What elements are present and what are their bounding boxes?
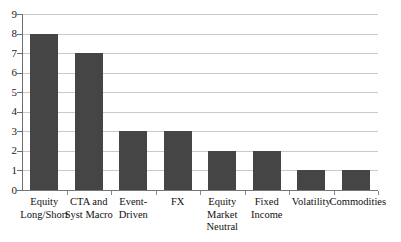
x-axis-category-label: Commodities <box>330 196 383 209</box>
bar-series <box>22 14 378 190</box>
x-axis-tick <box>67 191 68 195</box>
x-axis-tick <box>200 191 201 195</box>
x-axis-category-label-line: Neutral <box>196 221 249 234</box>
bar <box>253 151 281 190</box>
y-axis-tick-label: 5 <box>3 87 17 98</box>
bar <box>75 53 103 190</box>
bar <box>164 131 192 190</box>
x-axis-tick <box>245 191 246 195</box>
x-axis-tick <box>334 191 335 195</box>
x-axis-category-label-line: Income <box>241 209 294 222</box>
bar <box>119 131 147 190</box>
x-axis-tick <box>289 191 290 195</box>
x-axis-labels: EquityLong/ShortCTA andSyst MacroEvent-D… <box>22 196 378 242</box>
y-axis-tick <box>17 190 22 191</box>
x-axis-category-label-line: Commodities <box>330 196 383 209</box>
x-axis-tick <box>378 191 379 195</box>
y-axis-tick-label: 7 <box>3 48 17 59</box>
bar-chart: 0123456789 EquityLong/ShortCTA andSyst M… <box>0 0 401 242</box>
bar <box>30 34 58 190</box>
bar <box>297 170 325 190</box>
y-axis-tick-label: 6 <box>3 67 17 78</box>
y-axis-tick-label: 9 <box>3 9 17 20</box>
y-axis-tick-label: 8 <box>3 28 17 39</box>
y-axis-tick-label: 0 <box>3 185 17 196</box>
bar <box>342 170 370 190</box>
x-axis-tick <box>111 191 112 195</box>
y-axis-tick-label: 1 <box>3 165 17 176</box>
y-axis-tick-label: 2 <box>3 145 17 156</box>
y-axis-tick-label: 4 <box>3 106 17 117</box>
y-axis-tick-label: 3 <box>3 126 17 137</box>
x-axis-tick <box>156 191 157 195</box>
bar <box>208 151 236 190</box>
